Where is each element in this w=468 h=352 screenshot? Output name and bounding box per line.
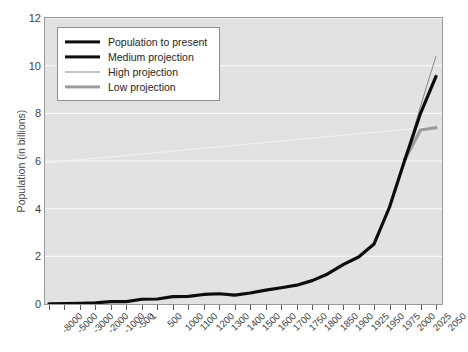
x-axis-tick-mark: [80, 305, 81, 310]
x-axis-tick-labels: -8000-5000-3000-2000-1000-50015001000110…: [44, 311, 457, 352]
x-axis-tick-mark: [142, 305, 143, 310]
x-axis-tick-label: 500: [166, 311, 184, 329]
x-axis-tick-mark: [436, 305, 437, 310]
legend-line-swatch-icon: [64, 81, 101, 93]
legend-line-swatch-icon: [64, 36, 101, 48]
x-axis-tick-mark: [312, 305, 313, 310]
legend-line-swatch-icon: [64, 51, 101, 63]
x-axis-tick-mark: [49, 305, 50, 310]
x-axis-tick-mark: [250, 305, 251, 310]
y-axis-tick-label: 2: [3, 251, 41, 262]
legend-line-swatch-icon: [64, 66, 101, 78]
legend-item: Medium projection: [64, 49, 212, 64]
y-axis-tick-labels: 024681012: [0, 0, 41, 352]
legend-item-label: Medium projection: [108, 51, 194, 63]
legend-item: High projection: [64, 64, 212, 79]
x-axis-tick-mark: [374, 305, 375, 310]
legend-item: Population to present: [64, 34, 212, 49]
legend-item: Low projection: [64, 79, 212, 94]
x-axis-tick-mark: [359, 305, 360, 310]
y-axis-tick-label: 10: [3, 60, 41, 71]
legend-item-label: Population to present: [108, 36, 207, 48]
x-axis-tick-mark: [328, 305, 329, 310]
legend-item-label: High projection: [108, 66, 178, 78]
x-axis-tick-mark: [343, 305, 344, 310]
x-axis-tick-mark: [405, 305, 406, 310]
x-axis-tick-mark: [204, 305, 205, 310]
y-axis-tick-label: 8: [3, 108, 41, 119]
x-axis-tick-mark: [126, 305, 127, 310]
y-axis-tick-label: 0: [3, 299, 41, 310]
x-axis-tick-mark: [219, 305, 220, 310]
x-axis-tick-mark: [111, 305, 112, 310]
x-axis-tick-mark: [173, 305, 174, 310]
chart-legend: Population to presentMedium projectionHi…: [57, 27, 220, 101]
x-axis-tick-mark: [188, 305, 189, 310]
series-line: [405, 76, 436, 159]
x-axis-tick-mark: [64, 305, 65, 310]
x-axis-tick-mark: [266, 305, 267, 310]
y-axis-tick-label: 12: [3, 13, 41, 24]
x-axis-tick-mark: [281, 305, 282, 310]
x-axis-tick-mark: [235, 305, 236, 310]
series-line: [49, 159, 405, 304]
x-axis-tick-mark: [421, 305, 422, 310]
x-axis-tick-mark: [157, 305, 158, 310]
y-axis-tick-label: 4: [3, 203, 41, 214]
y-axis-tick-label: 6: [3, 156, 41, 167]
legend-item-label: Low projection: [108, 81, 176, 93]
x-axis-tick-mark: [95, 305, 96, 310]
background-artifact-line: [45, 126, 442, 163]
x-axis-tick-mark: [390, 305, 391, 310]
x-axis-tick-mark: [297, 305, 298, 310]
